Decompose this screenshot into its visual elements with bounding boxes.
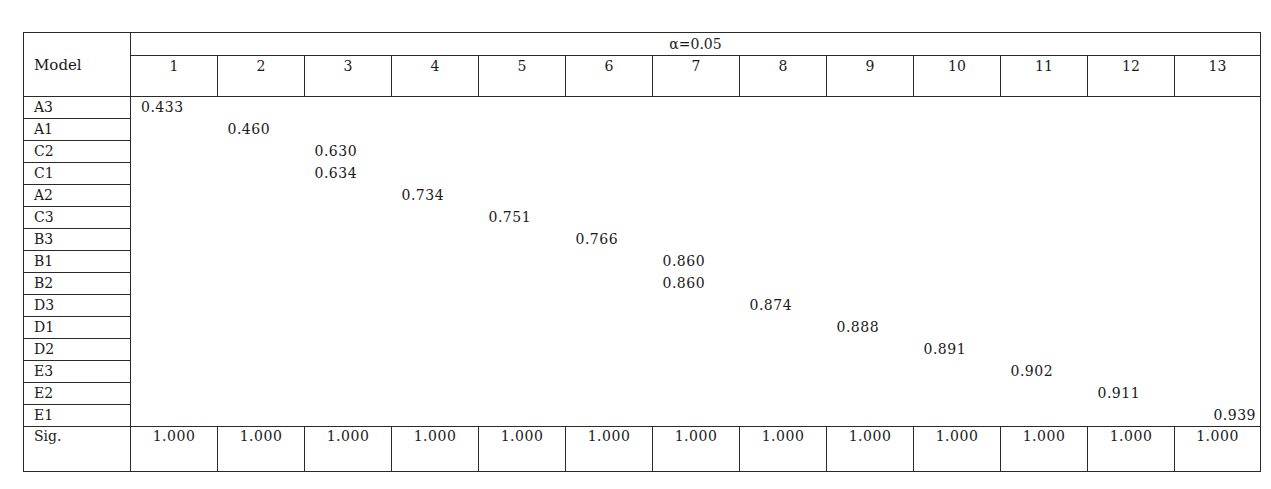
- empty-cell: [1088, 361, 1175, 383]
- subset-header-4: 4: [392, 56, 479, 97]
- empty-cell: [305, 339, 392, 361]
- empty-cell: [827, 295, 914, 317]
- model-label: B1: [24, 251, 131, 273]
- empty-cell: [479, 97, 566, 119]
- empty-cell: [218, 185, 305, 207]
- empty-cell: [1175, 383, 1261, 405]
- table-row: E30.902: [24, 361, 1261, 383]
- empty-cell: [827, 119, 914, 141]
- empty-cell: [392, 273, 479, 295]
- empty-cell: [914, 361, 1001, 383]
- sig-value: 1.000: [1175, 427, 1261, 472]
- subset-mean-value: 0.860: [653, 251, 740, 273]
- empty-cell: [218, 207, 305, 229]
- subset-mean-value: 0.939: [1175, 405, 1261, 427]
- empty-cell: [914, 207, 1001, 229]
- empty-cell: [740, 163, 827, 185]
- empty-cell: [218, 251, 305, 273]
- empty-cell: [1001, 251, 1088, 273]
- empty-cell: [131, 339, 218, 361]
- empty-cell: [1001, 97, 1088, 119]
- empty-cell: [392, 361, 479, 383]
- empty-cell: [305, 251, 392, 273]
- sig-value: 1.000: [392, 427, 479, 472]
- empty-cell: [914, 273, 1001, 295]
- empty-cell: [392, 119, 479, 141]
- subset-mean-value: 0.634: [305, 163, 392, 185]
- empty-cell: [131, 185, 218, 207]
- empty-cell: [1088, 163, 1175, 185]
- empty-cell: [218, 163, 305, 185]
- empty-cell: [1175, 119, 1261, 141]
- model-label: C2: [24, 141, 131, 163]
- empty-cell: [1001, 229, 1088, 251]
- table-row: A20.734: [24, 185, 1261, 207]
- empty-cell: [653, 295, 740, 317]
- table-body: A30.433A10.460C20.630C10.634A20.734C30.7…: [24, 97, 1261, 472]
- empty-cell: [218, 405, 305, 427]
- empty-cell: [827, 383, 914, 405]
- subset-header-13: 13: [1175, 56, 1261, 97]
- empty-cell: [914, 163, 1001, 185]
- empty-cell: [914, 97, 1001, 119]
- empty-cell: [218, 141, 305, 163]
- empty-cell: [1175, 229, 1261, 251]
- empty-cell: [218, 383, 305, 405]
- empty-cell: [392, 163, 479, 185]
- table-row: B20.860: [24, 273, 1261, 295]
- empty-cell: [479, 361, 566, 383]
- sig-value: 1.000: [218, 427, 305, 472]
- homogeneous-subsets-table: Model α=0.05 12345678910111213 A30.433A1…: [23, 32, 1261, 472]
- empty-cell: [1001, 295, 1088, 317]
- empty-cell: [131, 251, 218, 273]
- empty-cell: [914, 229, 1001, 251]
- empty-cell: [1001, 383, 1088, 405]
- empty-cell: [305, 361, 392, 383]
- subset-mean-value: 0.911: [1088, 383, 1175, 405]
- empty-cell: [653, 229, 740, 251]
- empty-cell: [1088, 97, 1175, 119]
- sig-value: 1.000: [740, 427, 827, 472]
- table-row: C20.630: [24, 141, 1261, 163]
- empty-cell: [131, 141, 218, 163]
- empty-cell: [740, 207, 827, 229]
- subset-header-1: 1: [131, 56, 218, 97]
- sig-value: 1.000: [653, 427, 740, 472]
- subset-header-row: 12345678910111213: [24, 56, 1261, 97]
- empty-cell: [1175, 141, 1261, 163]
- subset-mean-value: 0.874: [740, 295, 827, 317]
- sig-value: 1.000: [1088, 427, 1175, 472]
- empty-cell: [1175, 317, 1261, 339]
- empty-cell: [131, 317, 218, 339]
- subset-mean-value: 0.888: [827, 317, 914, 339]
- empty-cell: [740, 141, 827, 163]
- empty-cell: [1175, 163, 1261, 185]
- empty-cell: [479, 405, 566, 427]
- empty-cell: [827, 97, 914, 119]
- model-label: C3: [24, 207, 131, 229]
- empty-cell: [827, 163, 914, 185]
- empty-cell: [566, 251, 653, 273]
- empty-cell: [305, 295, 392, 317]
- empty-cell: [1088, 119, 1175, 141]
- model-label: E3: [24, 361, 131, 383]
- empty-cell: [914, 251, 1001, 273]
- empty-cell: [653, 361, 740, 383]
- empty-cell: [305, 273, 392, 295]
- empty-cell: [740, 119, 827, 141]
- empty-cell: [131, 163, 218, 185]
- table-row: E20.911: [24, 383, 1261, 405]
- model-label: B3: [24, 229, 131, 251]
- empty-cell: [479, 163, 566, 185]
- empty-cell: [218, 317, 305, 339]
- empty-cell: [1175, 185, 1261, 207]
- empty-cell: [305, 207, 392, 229]
- empty-cell: [479, 295, 566, 317]
- empty-cell: [1088, 317, 1175, 339]
- table-row: B10.860: [24, 251, 1261, 273]
- empty-cell: [131, 295, 218, 317]
- sig-value: 1.000: [131, 427, 218, 472]
- subset-header-3: 3: [305, 56, 392, 97]
- empty-cell: [566, 141, 653, 163]
- empty-cell: [1001, 141, 1088, 163]
